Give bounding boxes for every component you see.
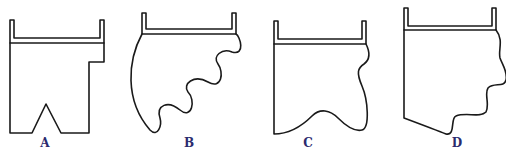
shape-c	[274, 21, 369, 134]
label-d: D	[452, 137, 462, 149]
shape-d	[404, 8, 506, 134]
shape-a	[10, 20, 104, 133]
shapes-figure: A B C D	[0, 0, 506, 156]
shape-b	[131, 13, 241, 133]
shapes-diagram	[0, 0, 506, 156]
label-c: C	[303, 137, 313, 149]
label-a: A	[40, 137, 49, 149]
label-b: B	[184, 137, 194, 149]
